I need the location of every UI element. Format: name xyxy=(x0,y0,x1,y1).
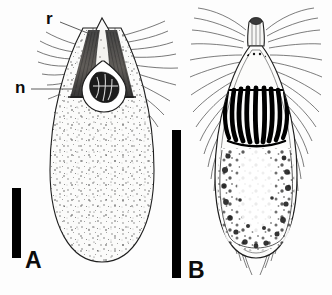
scale-bar-b xyxy=(172,130,181,278)
scale-bar-a xyxy=(12,188,21,258)
panel-b-drawing xyxy=(172,8,322,278)
apex-point-a xyxy=(96,18,109,30)
annotation-r-label: r xyxy=(46,10,53,27)
annotation-n-label: n xyxy=(15,79,25,96)
panel-a-drawing xyxy=(12,18,178,262)
panel-a-letter: A xyxy=(25,249,42,272)
panel-b-letter: B xyxy=(188,259,205,282)
apical-cap-b xyxy=(248,18,265,47)
posterior-granules-b xyxy=(212,145,302,260)
figure-plate xyxy=(0,0,332,295)
